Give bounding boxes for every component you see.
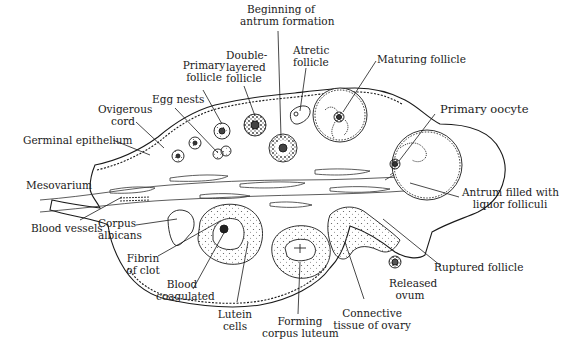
ruptured-follicle — [328, 207, 401, 268]
corpus-albicans — [168, 210, 194, 246]
label-beginning-antrum: Beginning of antrum formation — [240, 4, 322, 27]
label-primary-follicle: Primary follicle — [176, 60, 232, 83]
label-antrum-filled: Antrum filled with liquor folliculi — [462, 187, 558, 210]
label-maturing-follicle: Maturing follicle — [377, 54, 466, 66]
forming-corpus-luteum — [272, 226, 330, 279]
corpus-haemorrhagicum — [198, 204, 263, 264]
label-germinal-epithelium: Germinal epithelium — [23, 135, 133, 147]
label-corpus-albicans: Corpus albicans — [98, 218, 142, 241]
label-lutein-cells: Lutein cells — [217, 309, 253, 332]
label-connective-tissue: Connective tissue of ovary — [332, 308, 412, 331]
label-ruptured-follicle: Ruptured follicle — [434, 262, 523, 274]
label-blood-vessels: Blood vessels — [31, 223, 103, 235]
label-primary-oocyte: Primary oocyte — [440, 104, 529, 116]
label-fibrin-of-clot: Fibrin of clot — [125, 253, 161, 276]
label-egg-nests: Egg nests — [152, 94, 204, 106]
ovary-diagram — [0, 0, 564, 355]
label-atretic-follicle: Atretic follicle — [293, 45, 329, 68]
blood-vessels — [120, 197, 150, 201]
label-released-ovum: Released ovum — [389, 278, 431, 301]
label-mesovarium: Mesovarium — [26, 180, 92, 192]
label-forming-corpus-luteum: Forming corpus luteum — [262, 316, 338, 339]
label-double-layered-follicle: Double- layered follicle — [226, 50, 267, 85]
label-ovigerous-cord: Ovigerous cord — [98, 104, 148, 127]
label-blood-coagulated: Blood coagulated — [156, 279, 208, 302]
